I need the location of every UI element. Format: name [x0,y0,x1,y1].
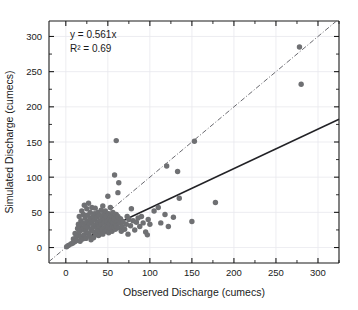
data-point-marker [298,82,303,87]
y-tick-label: 300 [26,31,42,42]
data-point-marker [147,222,152,227]
data-point-marker [177,196,182,201]
data-point-marker [151,208,156,213]
data-point-marker [122,227,127,232]
y-tick-label: 200 [26,101,42,112]
data-point-marker [213,200,218,205]
scatter-chart-figure: 050100150200250300 050100150200250300 Ob… [0,0,358,310]
data-point-marker [132,227,137,232]
x-tick-label: 0 [63,267,68,278]
data-point-marker [125,231,130,236]
data-point-marker [158,220,163,225]
x-tick-label: 100 [142,267,158,278]
y-tick-label: 150 [26,137,42,148]
data-point-marker [140,220,145,225]
data-point-marker [105,193,110,198]
data-point-marker [156,205,161,210]
x-tick-label: 250 [268,267,284,278]
x-tick-label: 300 [310,267,326,278]
data-point-marker [86,200,91,205]
r-squared-annotation: R² = 0.69 [70,43,112,54]
x-axis-title: Observed Discharge (cumecs) [123,286,265,298]
data-point-marker [114,138,119,143]
data-point-marker [175,169,180,174]
data-point-marker [145,217,150,222]
data-point-marker [164,163,169,168]
y-axis-title: Simulated Discharge (cumecs) [3,71,15,214]
data-point-marker [192,139,197,144]
data-point-marker [129,206,134,211]
y-tick-label: 100 [26,172,42,183]
data-point-marker [115,190,120,195]
data-point-marker [171,215,176,220]
data-point-marker [162,212,167,217]
plot-canvas: 050100150200250300 050100150200250300 Ob… [0,0,358,310]
data-point-marker [145,232,150,237]
data-point-marker [166,224,171,229]
y-tick-label: 50 [31,207,42,218]
equation-annotation: y = 0.561x [70,29,116,40]
data-point-marker [112,172,117,177]
x-tick-label: 200 [226,267,242,278]
x-tick-label: 50 [103,267,114,278]
y-tick-label: 250 [26,66,42,77]
data-point-marker [189,219,194,224]
data-point-marker [297,44,302,49]
y-tick-label: 0 [37,242,42,253]
data-point-marker [116,180,121,185]
data-point-marker [128,223,133,228]
data-point-marker [100,203,105,208]
data-point-marker [139,214,144,219]
data-point-marker [108,205,113,210]
x-tick-label: 150 [184,267,200,278]
